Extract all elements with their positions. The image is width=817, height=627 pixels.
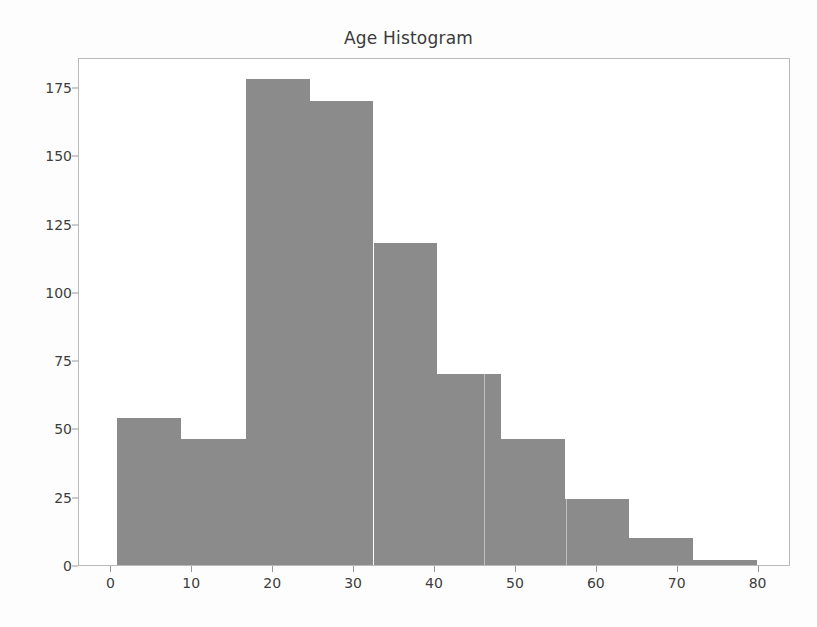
x-axis-tick-label: 10 xyxy=(161,575,221,591)
histogram-bar xyxy=(693,560,757,565)
y-axis-tick-label: 125 xyxy=(12,217,72,233)
x-axis-tick-mark xyxy=(272,566,273,572)
y-axis-tick-mark xyxy=(72,497,78,498)
y-axis-tick-label: 175 xyxy=(12,80,72,96)
x-axis-tick-mark xyxy=(110,566,111,572)
x-axis-tick-label: 30 xyxy=(323,575,383,591)
y-axis-tick-mark xyxy=(72,361,78,362)
x-axis-tick-label: 20 xyxy=(242,575,302,591)
x-axis-tick-label: 0 xyxy=(80,575,140,591)
y-axis-tick-mark xyxy=(72,88,78,89)
chart-title: Age Histogram xyxy=(0,28,817,48)
chart-figure: Age Histogram 02550751001251501750102030… xyxy=(0,0,817,627)
histogram-bar xyxy=(246,79,310,565)
x-axis-tick-label: 60 xyxy=(566,575,626,591)
x-axis-tick-label: 70 xyxy=(647,575,707,591)
x-axis-tick-label: 40 xyxy=(404,575,464,591)
raster-seam xyxy=(566,58,567,565)
x-axis-tick-mark xyxy=(353,566,354,572)
raster-seam xyxy=(484,58,485,565)
y-axis-tick-label: 150 xyxy=(12,148,72,164)
x-axis-tick-mark xyxy=(677,566,678,572)
histogram-bar xyxy=(565,499,629,565)
histogram-bar xyxy=(117,418,181,565)
y-axis-tick-mark xyxy=(72,292,78,293)
y-axis-tick-label: 50 xyxy=(12,421,72,437)
x-axis-tick-mark xyxy=(434,566,435,572)
histogram-bar xyxy=(629,538,693,565)
x-axis-tick-mark xyxy=(191,566,192,572)
x-axis-tick-label: 50 xyxy=(485,575,545,591)
x-axis-tick-mark xyxy=(758,566,759,572)
y-axis-tick-label: 0 xyxy=(12,558,72,574)
plot-area xyxy=(78,58,790,566)
histogram-bar xyxy=(181,439,246,565)
x-axis-tick-label: 80 xyxy=(728,575,788,591)
y-axis-tick-label: 25 xyxy=(12,490,72,506)
y-axis-tick-label: 75 xyxy=(12,353,72,369)
y-axis-tick-mark xyxy=(72,566,78,567)
y-axis-tick-label: 100 xyxy=(12,285,72,301)
x-axis-tick-mark xyxy=(515,566,516,572)
y-axis-tick-mark xyxy=(72,156,78,157)
histogram-bar xyxy=(310,101,374,565)
histogram-bar xyxy=(437,374,501,565)
x-axis-tick-mark xyxy=(596,566,597,572)
histogram-bar xyxy=(501,439,565,565)
histogram-bars xyxy=(79,59,789,565)
y-axis-tick-mark xyxy=(72,429,78,430)
y-axis-tick-mark xyxy=(72,224,78,225)
histogram-bar xyxy=(374,243,438,565)
